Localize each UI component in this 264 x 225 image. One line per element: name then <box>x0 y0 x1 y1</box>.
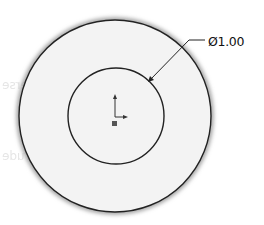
diameter-dimension-label[interactable]: Ø1.00 <box>208 34 244 49</box>
